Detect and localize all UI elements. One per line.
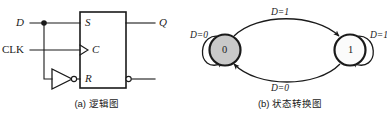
transition-label-arc-0-to-1: D=1 xyxy=(271,8,289,18)
transition-label-self-loop-0: D=0 xyxy=(190,31,208,41)
inverter-bubble-icon xyxy=(71,76,76,81)
state-transition-panel: 0 1 D=0 D=1 D=0 D=1 (b) 状态转换图 xyxy=(193,0,387,117)
pin-label-c: C xyxy=(92,44,99,55)
transition-label-self-loop-1: D=1 xyxy=(370,31,387,41)
wire-d-branch-to-inverter xyxy=(44,23,52,79)
caption-state-diagram: (b) 状态转换图 xyxy=(193,99,387,109)
figure-root: D CLK S C R Q Q (a) 逻辑图 xyxy=(0,0,387,117)
logic-diagram-panel: D CLK S C R Q Q (a) 逻辑图 xyxy=(0,0,193,117)
junction-dot-d xyxy=(41,20,47,26)
arc-0-to-1 xyxy=(234,19,339,36)
state-label-1: 1 xyxy=(348,45,353,56)
arc-1-to-0 xyxy=(234,64,340,82)
inverter-triangle-icon xyxy=(52,69,72,89)
output-label-q: Q xyxy=(159,17,167,28)
pin-label-s: S xyxy=(85,17,91,28)
input-label-d: D xyxy=(16,17,24,28)
input-label-clk: CLK xyxy=(2,44,24,55)
clock-wedge-icon xyxy=(80,45,88,55)
transition-label-arc-1-to-0: D=0 xyxy=(271,84,289,94)
state-label-0: 0 xyxy=(222,45,227,56)
caption-logic-diagram: (a) 逻辑图 xyxy=(0,99,193,109)
pin-label-r: R xyxy=(85,73,92,84)
qbar-bubble-icon xyxy=(126,76,131,81)
